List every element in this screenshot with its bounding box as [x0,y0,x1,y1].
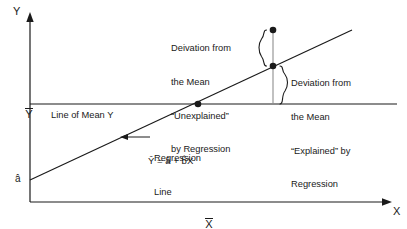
mean-line-label: Line of Mean Y [51,110,113,121]
unexplained-deviation-brace [259,30,267,66]
observed-data-point [270,27,277,34]
y-axis-label: Y [13,6,20,18]
x-axis-arrowhead [382,198,392,205]
x-mean-text: X [205,218,212,229]
regression-line-label-line-2: Line [154,187,201,198]
regression-deviation-diagram: Y X Y X â Line of Mean Y Deivation from … [0,0,407,228]
regression-line-label: Regression Line [154,131,201,221]
explained-callout-line-4: Regression [291,179,351,190]
x-axis-label: X [393,206,400,218]
y-mean-text: Y [25,108,32,120]
y-axis-arrowhead [26,12,33,22]
unexplained-callout-line-1: Deivation from [171,43,231,54]
explained-deviation-brace [280,66,288,104]
explained-callout-line-2: the Mean [291,112,351,123]
y-mean-label: Y [13,96,33,132]
explained-callout-line-3: “Explained” by [291,146,351,157]
predicted-point-on-regression-line [270,63,277,70]
unexplained-callout-line-3: “Unexplained” [171,111,231,122]
y-intercept-label: â [15,173,21,185]
unexplained-callout-line-2: the Mean [171,77,231,88]
regression-equation: Ŷ = â + b̂X [148,155,193,167]
explained-deviation-callout: Deviation from the Mean “Explained” by R… [291,56,351,213]
regression-label-arrowhead [120,134,128,140]
explained-callout-line-1: Deviation from [291,78,351,89]
